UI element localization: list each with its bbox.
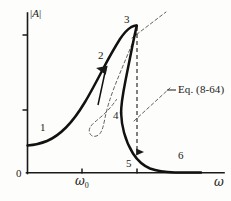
point-label-5: 5 [126,158,132,169]
y-axis-label-bar-right: | [39,7,41,19]
y-axis-label-variable: A [32,7,39,19]
omega-zero-glyph: ω [75,174,85,188]
point-label-4: 4 [113,110,119,121]
unstable-middle-branch [121,26,137,113]
axis-ticks [23,35,138,174]
eq-8-64-leader-line [134,88,170,121]
x-axis-tick-label-omega-zero: ω0 [75,175,89,190]
origin-label: 0 [16,168,22,179]
y-axis-label: |A| [30,8,41,19]
equation-callout-label: Eq. (8-64) [178,84,224,95]
stable-upper-branch-descending [121,113,201,173]
omega-zero-subscript: 0 [85,181,89,190]
response-curve-group [28,26,202,173]
frequency-response-plot [0,0,231,201]
x-axis-label: ω [214,176,224,188]
point-label-6: 6 [178,150,184,161]
point-label-1: 1 [40,122,46,133]
point-label-2: 2 [98,50,104,61]
figure-container: |A| 0 ω0 ω Eq. (8-64) 1 2 3 4 5 6 [0,0,231,201]
point-label-3: 3 [124,14,130,25]
